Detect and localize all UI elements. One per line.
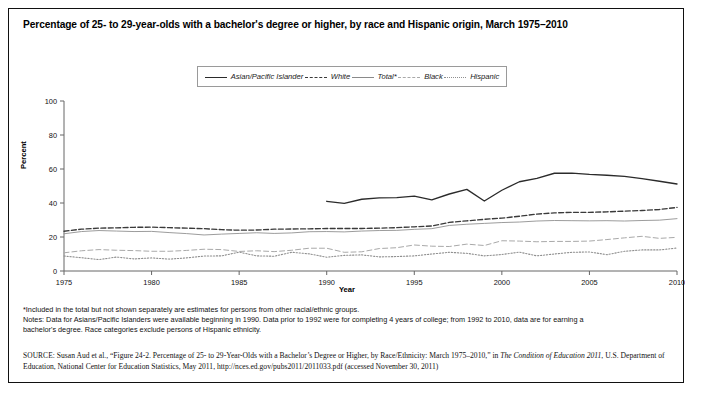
x-axis-title: Year [9,285,685,294]
figure-frame: Percentage of 25- to 29-year-olds with a… [8,8,684,383]
line-chart-svg: 0204060801001975198019851990199520002005… [9,9,685,299]
y-tick-label: 0 [53,267,57,276]
source-note: SOURCE: Susan Aud et al., “Figure 24-2. … [23,350,673,372]
chart-notes: *Included in the total but not shown sep… [23,305,671,336]
note-asterisk: *Included in the total but not shown sep… [23,305,671,315]
note-line-2: Notes: Data for Asians/Pacific Islanders… [23,315,671,325]
series-line-asian-pacific-islander [327,173,677,203]
y-tick-label: 100 [45,97,57,106]
y-tick-label: 80 [49,131,57,140]
source-label: SOURCE: [23,351,55,360]
series-line-white [64,207,677,231]
note-line-3: bachelor's degree. Race categories exclu… [23,325,671,335]
series-line-black [64,236,677,252]
y-axis-title: Percent [19,141,28,169]
source-publication-title: The Condition of Education 2011 [500,351,601,360]
source-text-part-1: Susan Aud et al., “Figure 24-2. Percenta… [55,351,500,360]
y-tick-label: 40 [49,199,57,208]
y-tick-label: 20 [49,233,57,242]
y-tick-label: 60 [49,165,57,174]
